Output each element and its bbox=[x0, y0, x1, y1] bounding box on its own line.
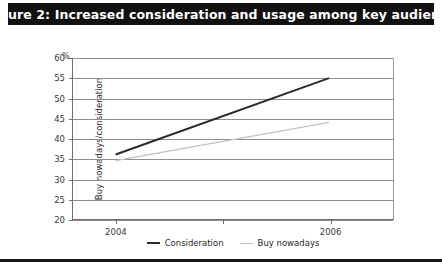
y-tick-label: 55 bbox=[54, 73, 65, 83]
figure-container: Figure 2: Increased consideration and us… bbox=[0, 0, 442, 262]
y-tick-label: 20 bbox=[54, 215, 65, 225]
y-tick-label: 35 bbox=[54, 154, 65, 164]
legend-item[interactable]: Consideration bbox=[147, 238, 224, 248]
y-tick-mark bbox=[69, 220, 73, 221]
legend-label: Buy nowadays bbox=[258, 238, 320, 248]
y-tick-label: 40 bbox=[54, 134, 65, 144]
plot-area: 202530354045505560 20042006 bbox=[72, 58, 394, 220]
x-tick-mark bbox=[331, 219, 332, 224]
series-group bbox=[73, 58, 393, 219]
legend-swatch bbox=[147, 242, 160, 244]
chart-area: % Buy nowadays/consideration 20253035404… bbox=[0, 26, 442, 259]
x-tick-mark bbox=[223, 219, 224, 224]
legend-item[interactable]: Buy nowadays bbox=[240, 238, 320, 248]
series-line bbox=[116, 78, 329, 154]
y-tick-label: 45 bbox=[54, 114, 65, 124]
gridline bbox=[73, 220, 393, 221]
y-tick-label: 60 bbox=[54, 53, 65, 63]
y-tick-label: 50 bbox=[54, 94, 65, 104]
legend-swatch bbox=[240, 243, 253, 244]
series-line bbox=[116, 122, 329, 160]
legend-label: Consideration bbox=[165, 238, 224, 248]
x-tick-label: 2006 bbox=[320, 227, 342, 237]
x-tick-mark bbox=[116, 219, 117, 224]
y-tick-label: 25 bbox=[54, 195, 65, 205]
figure-title-bar: Figure 2: Increased consideration and us… bbox=[8, 3, 434, 25]
y-tick-label: 30 bbox=[54, 175, 65, 185]
chart-legend: ConsiderationBuy nowadays bbox=[72, 238, 394, 248]
x-tick-label: 2004 bbox=[105, 227, 127, 237]
figure-title: Figure 2: Increased consideration and us… bbox=[0, 7, 442, 22]
